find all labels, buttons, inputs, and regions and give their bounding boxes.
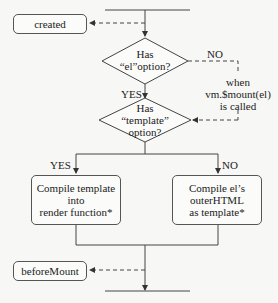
mount-note-line2: vm.$mount(el) bbox=[203, 88, 273, 100]
before-mount-label: beforeMount bbox=[21, 265, 78, 277]
yes-label-1: YES bbox=[121, 88, 142, 100]
compile-el-line2: outerHTML bbox=[190, 194, 244, 206]
compile-el-line1: Compile el’s bbox=[189, 182, 245, 194]
compile-template-line2: into bbox=[67, 194, 84, 206]
yes-label-2: YES bbox=[50, 159, 71, 171]
mount-note-line3: is called bbox=[203, 100, 273, 112]
template-option-line2: “template” bbox=[115, 114, 175, 126]
el-option-line2: “el”option? bbox=[115, 60, 175, 72]
template-option-line3: option? bbox=[115, 126, 175, 138]
template-option-decision: Has “template” option? bbox=[115, 102, 175, 138]
compile-template-line1: Compile template bbox=[37, 182, 116, 194]
compile-template-line3: render function* bbox=[40, 206, 113, 218]
mount-note: when vm.$mount(el) is called bbox=[203, 76, 273, 112]
compile-el-line3: as template* bbox=[189, 206, 244, 218]
created-hook-box: created bbox=[13, 14, 87, 34]
template-option-line1: Has bbox=[115, 102, 175, 114]
el-option-line1: Has bbox=[115, 48, 175, 60]
no-label-2: NO bbox=[222, 159, 238, 171]
before-mount-hook-box: beforeMount bbox=[13, 261, 87, 281]
created-label: created bbox=[34, 18, 66, 30]
mount-note-line1: when bbox=[203, 76, 273, 88]
compile-el-box: Compile el’s outerHTML as template* bbox=[172, 175, 262, 225]
no-label-1: NO bbox=[207, 48, 223, 60]
el-option-decision: Has “el”option? bbox=[115, 48, 175, 72]
compile-template-box: Compile template into render function* bbox=[31, 175, 121, 225]
flowchart-connectors bbox=[0, 0, 278, 303]
